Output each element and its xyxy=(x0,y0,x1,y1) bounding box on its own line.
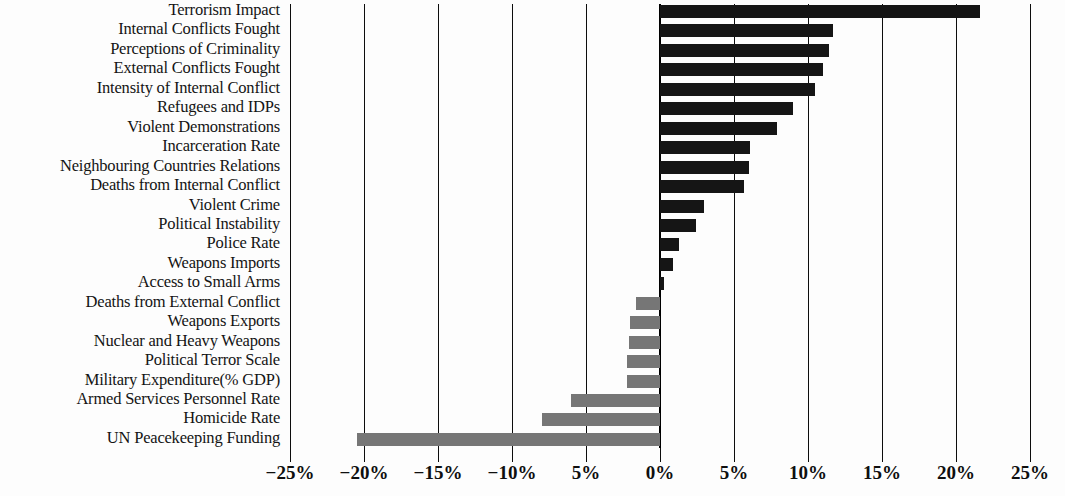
gridline xyxy=(882,4,883,448)
bar xyxy=(636,297,660,310)
x-tick-label: −20% xyxy=(340,462,389,484)
category-label: Incarceration Rate xyxy=(0,138,280,154)
x-tick-label: 25% xyxy=(1011,462,1049,484)
bar xyxy=(660,238,679,251)
category-label: Military Expenditure(% GDP) xyxy=(0,372,280,388)
gridline xyxy=(290,4,291,448)
x-tick-label: −10% xyxy=(488,462,537,484)
category-label: Violent Demonstrations xyxy=(0,119,280,135)
gridline xyxy=(1030,4,1031,448)
axis-tick-mark xyxy=(586,448,587,462)
category-label: Weapons Exports xyxy=(0,313,280,329)
x-tick-label: −25% xyxy=(266,462,315,484)
gridline xyxy=(438,4,439,448)
axis-tick-mark xyxy=(512,448,513,462)
bar xyxy=(660,219,696,232)
axis-tick-mark xyxy=(438,448,439,462)
axis-tick-mark xyxy=(882,448,883,462)
x-axis-tick-labels: −25%−20%−15%−10%5%0%5%10%15%20%25% xyxy=(290,462,1030,492)
x-tick-label: −15% xyxy=(414,462,463,484)
category-label: Access to Small Arms xyxy=(0,274,280,290)
category-label: Political Instability xyxy=(0,216,280,232)
bar xyxy=(660,141,750,154)
bar xyxy=(660,200,704,213)
bar-chart: Terrorism ImpactInternal Conflicts Fough… xyxy=(0,0,1065,496)
gridline xyxy=(586,4,587,448)
bar xyxy=(660,102,793,115)
bar xyxy=(660,44,829,57)
bar xyxy=(660,5,980,18)
category-label: Perceptions of Criminality xyxy=(0,41,280,57)
axis-tick-mark xyxy=(808,448,809,462)
category-label: Terrorism Impact xyxy=(0,2,280,18)
axis-tick-mark xyxy=(1030,448,1031,462)
category-label: Violent Crime xyxy=(0,197,280,213)
x-tick-label: 15% xyxy=(863,462,901,484)
bar xyxy=(357,433,660,446)
category-label: Armed Services Personnel Rate xyxy=(0,391,280,407)
category-label: UN Peacekeeping Funding xyxy=(0,430,280,446)
category-label: Neighbouring Countries Relations xyxy=(0,158,280,174)
axis-tick-mark xyxy=(734,448,735,462)
bar xyxy=(660,83,815,96)
bar xyxy=(660,24,833,37)
category-label: Deaths from Internal Conflict xyxy=(0,177,280,193)
category-label: Police Rate xyxy=(0,235,280,251)
bar xyxy=(660,63,823,76)
bar xyxy=(629,336,660,349)
category-label: Deaths from External Conflict xyxy=(0,294,280,310)
bar xyxy=(660,161,749,174)
x-tick-label: 5% xyxy=(720,462,749,484)
category-label-column: Terrorism ImpactInternal Conflicts Fough… xyxy=(0,0,286,450)
gridline xyxy=(512,4,513,448)
category-label: Nuclear and Heavy Weapons xyxy=(0,333,280,349)
plot-area xyxy=(290,4,1030,448)
axis-tick-mark xyxy=(364,448,365,462)
bar xyxy=(630,316,660,329)
bar xyxy=(571,394,660,407)
category-label: Homicide Rate xyxy=(0,410,280,426)
bar xyxy=(660,277,664,290)
bar xyxy=(627,375,660,388)
axis-tick-mark xyxy=(956,448,957,462)
gridline xyxy=(956,4,957,448)
category-label: Intensity of Internal Conflict xyxy=(0,80,280,96)
x-tick-label: 0% xyxy=(646,462,675,484)
bar xyxy=(660,180,744,193)
bar xyxy=(660,122,777,135)
axis-tick-mark xyxy=(290,448,291,462)
bar xyxy=(627,355,660,368)
axis-tick-mark xyxy=(660,448,661,462)
x-tick-label: 5% xyxy=(572,462,601,484)
bar xyxy=(542,413,660,426)
category-label: External Conflicts Fought xyxy=(0,60,280,76)
x-tick-label: 20% xyxy=(937,462,975,484)
category-label: Political Terror Scale xyxy=(0,352,280,368)
gridline xyxy=(364,4,365,448)
category-label: Refugees and IDPs xyxy=(0,99,280,115)
category-label: Internal Conflicts Fought xyxy=(0,21,280,37)
bar xyxy=(660,258,673,271)
category-label: Weapons Imports xyxy=(0,255,280,271)
x-tick-label: 10% xyxy=(789,462,827,484)
